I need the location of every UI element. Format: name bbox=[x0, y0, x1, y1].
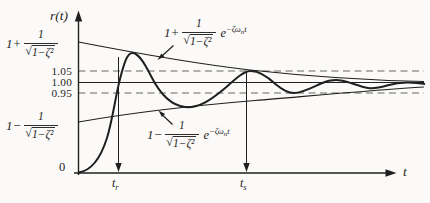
exp-sup: −ζω bbox=[226, 24, 241, 34]
fraction-denominator: √1−ζ² bbox=[182, 32, 215, 48]
y-axis-title: r(t) bbox=[50, 9, 68, 23]
fraction-denominator: √1−ζ² bbox=[24, 125, 57, 141]
origin-label: 0 bbox=[59, 161, 65, 174]
t-sub: r bbox=[115, 183, 118, 192]
fraction-numerator: 1 bbox=[36, 111, 46, 125]
fraction-numerator: 1 bbox=[36, 29, 46, 43]
upper-envelope-label: 1+ 1 √1−ζ² e−ζωnt bbox=[164, 18, 247, 48]
figure-step-response: r(t) 1+ 1 √1−ζ² 1.05 1.00 0.95 1− 1 √1−ζ… bbox=[0, 0, 430, 203]
exp-sub: n bbox=[224, 131, 228, 138]
lower-intercept-fraction: 1 √1−ζ² bbox=[24, 111, 57, 141]
t-sub: s bbox=[243, 183, 246, 192]
exp-sup: −ζω bbox=[209, 126, 224, 136]
x-axis-arrowhead-icon bbox=[386, 169, 397, 176]
rise-time-arrowhead-icon bbox=[115, 163, 121, 172]
fraction-numerator: 1 bbox=[194, 18, 204, 32]
upper-envelope-fraction: 1 √1−ζ² bbox=[182, 18, 215, 48]
settling-time-arrowhead-icon bbox=[243, 163, 249, 172]
ref-value-0.95: 0.95 bbox=[38, 88, 72, 99]
upper-intercept-prefix: 1+ bbox=[6, 37, 21, 50]
lower-intercept-label: 1− 1 √1−ζ² bbox=[6, 111, 58, 141]
exp-sub: n bbox=[241, 29, 245, 36]
sqrt-icon: √ bbox=[25, 44, 32, 56]
lower-envelope-curve bbox=[79, 87, 425, 122]
sqrt-radicand: 1−ζ² bbox=[32, 127, 55, 141]
sqrt-icon: √ bbox=[183, 33, 190, 45]
sqrt-icon: √ bbox=[25, 126, 32, 138]
upper-intercept-fraction: 1 √1−ζ² bbox=[24, 29, 57, 59]
lower-envelope-fraction: 1 √1−ζ² bbox=[165, 120, 198, 150]
sqrt-icon: √ bbox=[166, 135, 173, 147]
lower-intercept-prefix: 1− bbox=[6, 119, 21, 132]
upper-envelope-exponential: e−ζωnt bbox=[221, 27, 247, 40]
x-axis-title: t bbox=[403, 165, 407, 179]
fraction-denominator: √1−ζ² bbox=[24, 43, 57, 59]
rise-time-label: tr bbox=[112, 177, 119, 189]
sqrt-radicand: 1−ζ² bbox=[173, 136, 196, 150]
upper-envelope-curve bbox=[79, 42, 425, 82]
y-axis-arrowhead-icon bbox=[75, 11, 82, 22]
sqrt-radicand: 1−ζ² bbox=[190, 34, 213, 48]
lower-envelope-label: 1− 1 √1−ζ² e−ζωnt bbox=[147, 120, 230, 150]
lower-envelope-prefix: 1− bbox=[147, 128, 162, 141]
settling-time-label: ts bbox=[240, 177, 247, 189]
lower-envelope-exponential: e−ζωnt bbox=[204, 129, 230, 142]
sqrt-radicand: 1−ζ² bbox=[32, 45, 55, 59]
fraction-denominator: √1−ζ² bbox=[165, 134, 198, 150]
upper-intercept-label: 1+ 1 √1−ζ² bbox=[6, 29, 58, 59]
upper-envelope-prefix: 1+ bbox=[164, 26, 179, 39]
fraction-numerator: 1 bbox=[177, 120, 187, 134]
